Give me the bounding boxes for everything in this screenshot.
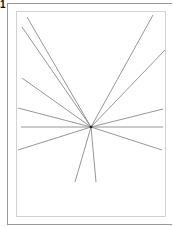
ray-line xyxy=(27,17,91,127)
ray-line xyxy=(91,109,163,127)
outer-frame xyxy=(8,4,173,225)
ray-line xyxy=(91,15,153,127)
ray-line xyxy=(22,78,91,127)
ray-line xyxy=(91,127,162,150)
ray-line xyxy=(75,127,91,182)
ray-group xyxy=(18,15,165,182)
ray-line xyxy=(18,127,91,150)
ray-line xyxy=(91,127,96,182)
ray-line xyxy=(91,50,165,127)
center-point xyxy=(90,126,93,129)
radiating-lines-diagram xyxy=(0,0,172,227)
